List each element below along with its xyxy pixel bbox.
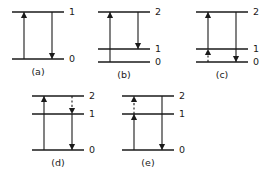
transition-arrowhead-emission-2-to-0 — [159, 144, 165, 150]
energy-level-figure: 01(a) 012(b) 012(c) 012(d) 012(e) — [0, 0, 279, 177]
panel-caption-a: (a) — [31, 66, 44, 77]
panel-caption-e: (e) — [141, 157, 154, 168]
panel-b: 012(b) — [92, 4, 172, 82]
panel-e-diagram: 012(e) — [116, 88, 196, 174]
transition-arrowhead-emission-2-to-0 — [233, 56, 239, 62]
panel-d: 012(d) — [26, 88, 106, 174]
energy-level-label-0: 0 — [155, 56, 161, 67]
energy-level-label-0: 0 — [253, 56, 259, 67]
energy-level-label-0: 0 — [69, 53, 75, 64]
panel-a: 01(a) — [6, 4, 86, 82]
energy-level-label-1: 1 — [89, 108, 95, 119]
transition-arrowhead-absorption-1-to-2 — [205, 12, 211, 18]
transition-arrowhead-absorption-0-to-1 — [21, 12, 27, 18]
energy-level-label-2: 2 — [253, 6, 259, 17]
energy-level-label-0: 0 — [89, 144, 95, 155]
transition-arrowhead-relaxation-2-to-1-dashed — [69, 108, 75, 114]
energy-level-label-2: 2 — [155, 6, 161, 17]
panel-caption-b: (b) — [117, 69, 130, 80]
transition-arrowhead-emission-1-to-0 — [69, 144, 75, 150]
energy-level-label-2: 2 — [179, 90, 185, 101]
energy-level-label-1: 1 — [179, 108, 185, 119]
panel-b-diagram: 012(b) — [92, 4, 172, 82]
transition-arrowhead-absorption-0-to-2 — [107, 12, 113, 18]
energy-level-label-2: 2 — [89, 90, 95, 101]
energy-level-label-1: 1 — [155, 43, 161, 54]
transition-arrowhead-absorption-0-to-2 — [41, 96, 47, 102]
transition-arrowhead-emission-1-to-0 — [49, 53, 55, 59]
transition-arrowhead-relaxation-1-to-2-dashed — [131, 96, 137, 102]
panel-c-diagram: 012(c) — [190, 4, 270, 82]
panel-a-diagram: 01(a) — [6, 4, 86, 82]
panel-caption-d: (d) — [51, 157, 64, 168]
energy-level-label-0: 0 — [179, 144, 185, 155]
transition-arrowhead-emission-2-to-1 — [135, 43, 141, 49]
panel-caption-c: (c) — [216, 69, 229, 80]
panel-c: 012(c) — [190, 4, 270, 82]
transition-arrowhead-absorption-0-to-1 — [131, 114, 137, 120]
transition-arrowhead-relaxation-0-to-1-dashed — [205, 49, 211, 55]
panel-d-diagram: 012(d) — [26, 88, 106, 174]
energy-level-label-1: 1 — [69, 6, 75, 17]
energy-level-label-1: 1 — [253, 43, 259, 54]
panel-e: 012(e) — [116, 88, 196, 174]
